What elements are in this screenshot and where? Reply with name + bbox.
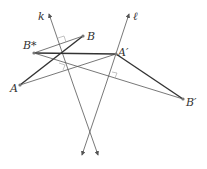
point-B-prime	[181, 97, 184, 100]
line-k	[49, 14, 73, 84]
label-l: ℓ	[133, 10, 138, 23]
segment-Bstar-Bprime	[34, 53, 183, 99]
reflection-diagram: k ℓ B B* A′ A B′	[0, 0, 207, 169]
right-angle-mark	[58, 36, 66, 42]
point-B	[81, 34, 84, 37]
point-A	[18, 83, 21, 86]
right-angle-mark	[59, 63, 65, 70]
segment-Aprime-Bprime	[116, 54, 183, 99]
label-A-prime: A′	[117, 46, 129, 59]
label-k: k	[38, 10, 45, 23]
segment-Bstar-B	[34, 36, 83, 53]
label-B: B	[86, 30, 95, 43]
label-B-star: B*	[22, 39, 37, 52]
segment-A-Aprime	[20, 54, 116, 85]
segment-Bstar-Aprime	[34, 53, 116, 54]
label-A: A	[9, 82, 18, 95]
label-B-prime: B′	[185, 96, 197, 109]
